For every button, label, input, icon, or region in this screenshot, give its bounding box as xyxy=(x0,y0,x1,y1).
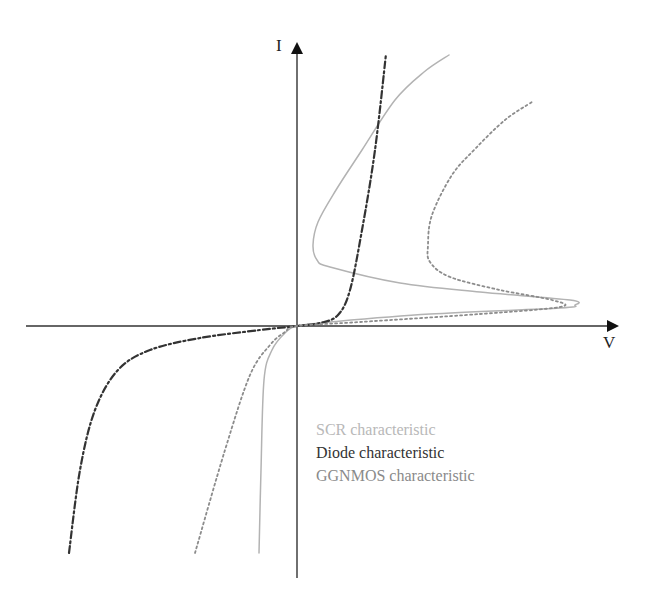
legend: SCR characteristic Diode characteristic … xyxy=(316,418,475,487)
legend-item-ggnmos: GGNMOS characteristic xyxy=(316,464,475,487)
y-axis-label: I xyxy=(276,36,282,56)
x-axis-arrow-icon xyxy=(607,320,619,332)
legend-item-diode: Diode characteristic xyxy=(316,441,475,464)
iv-chart xyxy=(0,0,646,606)
y-axis-arrow-icon xyxy=(291,42,303,54)
x-axis-label: V xyxy=(603,333,615,353)
legend-item-scr: SCR characteristic xyxy=(316,418,475,441)
